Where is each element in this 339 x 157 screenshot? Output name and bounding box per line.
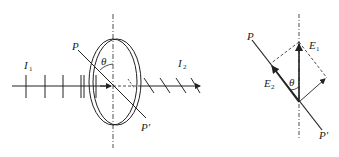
left-panel: P P' θ I 1 I 2 bbox=[12, 14, 200, 148]
label-E2: E 2 bbox=[263, 77, 275, 91]
inner-dashed-tick bbox=[128, 79, 134, 88]
label-P-prime-right: P' bbox=[318, 129, 329, 141]
label-theta-right: θ bbox=[289, 76, 295, 88]
polarizer-diagram: P P' θ I 1 I 2 P P' θ E bbox=[0, 0, 339, 157]
label-P-left: P bbox=[71, 40, 79, 52]
label-I1: I 1 bbox=[23, 59, 33, 73]
svg-text:1: 1 bbox=[316, 45, 320, 53]
svg-text:E: E bbox=[308, 39, 316, 51]
svg-text:E: E bbox=[263, 77, 271, 89]
label-I2: I 2 bbox=[177, 57, 187, 71]
svg-text:1: 1 bbox=[29, 65, 33, 73]
vector-E2 bbox=[272, 66, 299, 102]
label-E1: E 1 bbox=[308, 39, 320, 53]
right-panel: P P' θ E 1 E 2 bbox=[246, 14, 329, 141]
label-P-prime-left: P' bbox=[140, 121, 151, 133]
svg-text:2: 2 bbox=[271, 83, 275, 91]
label-P-right: P bbox=[246, 30, 254, 42]
transmission-axis-PP bbox=[78, 50, 146, 118]
svg-text:2: 2 bbox=[183, 63, 187, 71]
label-theta-left: θ bbox=[101, 55, 107, 67]
vector-perpendicular bbox=[299, 79, 325, 102]
polarizer-disk-back bbox=[93, 39, 141, 125]
dashed-side-left bbox=[270, 42, 299, 64]
